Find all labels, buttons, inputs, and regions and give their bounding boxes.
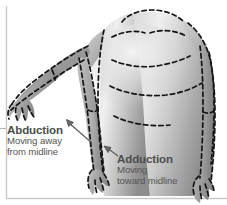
- adduction-annotation: Adduction Moving toward midline: [117, 153, 177, 186]
- human-figure: [8, 10, 215, 203]
- anatomy-figure: Abduction Moving away from midline Adduc…: [0, 0, 227, 205]
- anatomy-illustration-canvas: [0, 0, 227, 205]
- abduction-annotation: Abduction Moving away from midline: [7, 124, 63, 157]
- adduction-subtext-line-2: toward midline: [117, 176, 177, 186]
- chest-highlight: [92, 24, 188, 116]
- abduction-subtext-line-2: from midline: [7, 147, 63, 157]
